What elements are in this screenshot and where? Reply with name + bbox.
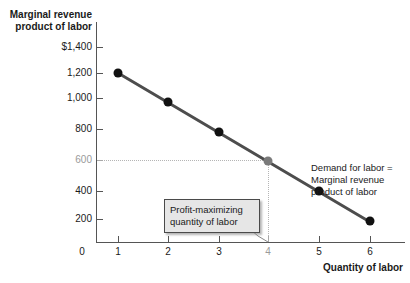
demand-curve-annotation: Demand for labor = Marginal revenue prod… <box>311 162 393 198</box>
chart-container: Marginal revenue product of labor Quanti… <box>0 0 410 283</box>
profit-maximizing-callout: Profit-maximizing quantity of labor <box>164 199 260 233</box>
data-point-q2 <box>164 98 173 107</box>
data-point-q4-highlight <box>264 157 273 166</box>
data-point-q3 <box>215 128 224 137</box>
demand-curve-series <box>0 0 410 283</box>
data-point-q1 <box>114 69 123 78</box>
data-point-q6 <box>366 217 375 226</box>
